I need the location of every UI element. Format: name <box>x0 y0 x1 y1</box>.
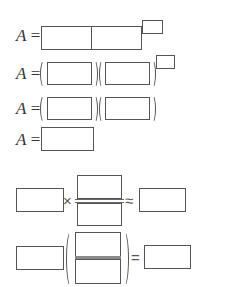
row2-left-paren-1 <box>40 60 47 88</box>
row3-left-paren-1 <box>40 95 47 123</box>
row1-exponent-input[interactable] <box>142 20 163 34</box>
row2-input-1[interactable] <box>47 62 92 85</box>
row4-var: A <box>16 130 26 149</box>
row5-numerator-input[interactable] <box>77 175 122 199</box>
row1-label: A = <box>16 27 40 44</box>
row6-left-paren <box>66 231 74 287</box>
row1-input-left[interactable] <box>41 26 92 50</box>
row3-right-paren-2 <box>150 95 156 123</box>
row1-eq: = <box>26 26 40 45</box>
row2-eq: = <box>26 64 40 83</box>
row2-right-paren-1 <box>92 60 98 88</box>
row6-result-input[interactable] <box>144 245 191 269</box>
row4-label: A = <box>16 131 40 148</box>
row6-numerator-input[interactable] <box>75 232 121 257</box>
approx-sign: ≈ <box>125 193 133 208</box>
equals-sign: = <box>131 250 140 265</box>
row6-right-paren <box>121 231 129 287</box>
row2-exponent-input[interactable] <box>156 55 175 69</box>
row3-label: A = <box>16 100 40 117</box>
row3-eq: = <box>26 99 40 118</box>
row6-left-input[interactable] <box>16 246 64 270</box>
row4-input[interactable] <box>41 127 94 151</box>
row1-input-right[interactable] <box>91 26 142 50</box>
row5-denominator-input[interactable] <box>77 203 122 226</box>
row4-eq: = <box>26 130 40 149</box>
row5-result-input[interactable] <box>139 188 186 212</box>
row6-denominator-input[interactable] <box>75 259 121 284</box>
row3-right-paren-1 <box>92 95 98 123</box>
row1-var: A <box>16 26 26 45</box>
row3-var: A <box>16 99 26 118</box>
row3-input-1[interactable] <box>47 97 92 120</box>
row2-label: A = <box>16 65 40 82</box>
row2-input-2[interactable] <box>105 62 150 85</box>
row2-var: A <box>16 64 26 83</box>
row3-input-2[interactable] <box>105 97 150 120</box>
times-sign: × <box>63 193 72 208</box>
row5-left-input[interactable] <box>16 188 64 212</box>
